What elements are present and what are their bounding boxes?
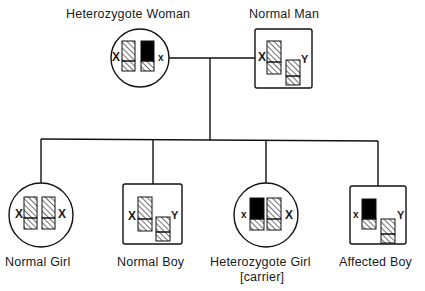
mother-right-letter: x: [158, 52, 164, 63]
child1-right-letter: X: [58, 207, 66, 221]
child3-label: Heterozygote Girl: [210, 255, 311, 269]
mother-chromosome-x-affected: [141, 41, 154, 71]
child3-chromosome-x-normal: [267, 198, 281, 230]
child2-left-letter: X: [128, 209, 136, 223]
child4-right-letter: Y: [397, 209, 405, 221]
child2-chromosome-y: [156, 217, 170, 241]
pedigree-lines: [41, 58, 378, 186]
child4-chromosome-y: [381, 219, 395, 243]
child2-chromosome-x: [138, 197, 152, 231]
child1-chromosome-x2: [42, 197, 55, 229]
mother-left-letter: X: [112, 50, 120, 64]
father-chromosome-y: [286, 60, 300, 85]
pedigree-diagram: [0, 0, 425, 291]
child3-chromosome-x-affected: [250, 198, 264, 230]
father-right-letter: Y: [301, 53, 309, 65]
father-chromosome-x: [267, 41, 281, 74]
child1-label: Normal Girl: [5, 255, 70, 269]
child3-sublabel: [carrier]: [240, 270, 284, 284]
child2-label: Normal Boy: [117, 255, 184, 269]
child4-label: Affected Boy: [339, 255, 412, 269]
father-left-letter: X: [258, 50, 266, 64]
child4-chromosome-x-affected: [362, 199, 376, 229]
child1-chromosome-x1: [24, 197, 37, 229]
child3-left-letter: x: [241, 209, 247, 220]
child4-left-letter: x: [353, 209, 359, 220]
child1-left-letter: X: [15, 207, 23, 221]
child3-right-letter: X: [285, 208, 293, 222]
mother-label: Heterozygote Woman: [66, 7, 190, 21]
sibship-line: [41, 139, 378, 141]
mother-chromosome-x-normal: [122, 41, 135, 71]
father-label: Normal Man: [249, 7, 319, 21]
child2-right-letter: Y: [171, 209, 179, 221]
